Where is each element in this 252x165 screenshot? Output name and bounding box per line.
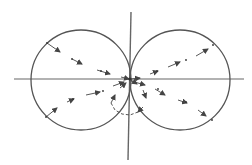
trajectory-dot <box>102 90 104 92</box>
trajectory-dot <box>211 119 213 121</box>
diagram-canvas <box>0 0 252 165</box>
trajectories <box>46 43 208 117</box>
trajectory-dot <box>185 101 187 103</box>
trajectory-dot <box>157 88 159 90</box>
trajectory-dot <box>46 42 48 44</box>
flow-arrow <box>143 90 146 98</box>
trajectory-dot <box>71 58 73 60</box>
trajectory-dot <box>212 44 214 46</box>
left-upper-trajectory <box>47 43 129 79</box>
flow-arrow <box>113 82 124 86</box>
right-circle <box>130 30 230 130</box>
left-circle <box>31 30 131 130</box>
flow-arrow <box>111 95 115 103</box>
origin-point <box>128 77 131 80</box>
flow-arrow <box>97 70 110 74</box>
trajectory-dot <box>72 98 74 100</box>
phase-portrait-diagram <box>0 0 252 165</box>
flow-arrow <box>196 49 208 56</box>
trajectory-dot <box>156 70 158 72</box>
trajectory-dot <box>100 70 102 72</box>
right-lower-trajectory <box>131 81 206 116</box>
flow-arrow <box>72 59 82 64</box>
flow-arrow <box>155 89 165 95</box>
flow-arrow <box>120 83 126 88</box>
flow-arrow <box>86 92 100 95</box>
flow-arrow <box>168 62 180 67</box>
flow-arrow <box>198 110 206 116</box>
axes <box>14 12 244 160</box>
trajectory-dot <box>185 59 187 61</box>
right-upper-trajectory <box>131 49 208 79</box>
flow-arrow <box>46 108 57 117</box>
flow-arrow <box>47 43 60 52</box>
trajectory-dot <box>45 116 47 118</box>
